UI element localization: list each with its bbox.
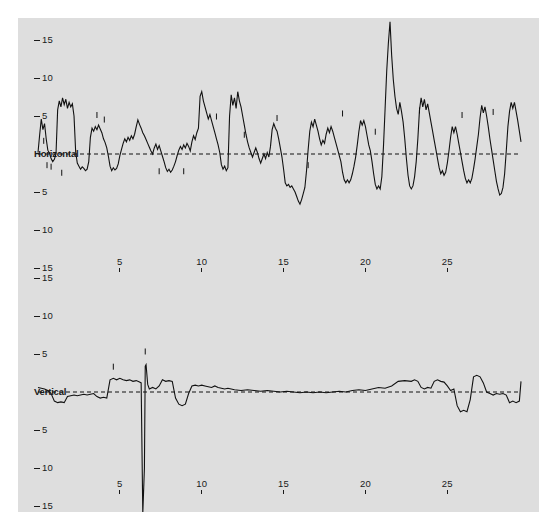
y-tick-label: 15 bbox=[42, 272, 53, 283]
x-tick-mark bbox=[447, 268, 448, 272]
x-tick-mark bbox=[283, 268, 284, 272]
x-tick-label: 5 bbox=[108, 478, 132, 489]
panel-center-label-vertical: Vertical bbox=[34, 386, 66, 397]
y-tick-dash bbox=[34, 192, 40, 193]
x-tick-mark bbox=[119, 268, 120, 272]
y-tick-label: 15 bbox=[42, 500, 53, 511]
x-tick-mark bbox=[119, 490, 120, 494]
x-tick-label: 20 bbox=[353, 256, 377, 267]
x-tick-mark bbox=[283, 490, 284, 494]
x-tick-mark bbox=[201, 490, 202, 494]
x-tick-mark bbox=[365, 268, 366, 272]
figure-root: 15105Horizontal51015510152025 15105Verti… bbox=[0, 0, 557, 530]
y-tick-label: 5 bbox=[42, 186, 47, 197]
y-tick-dash bbox=[34, 468, 40, 469]
x-tick-label: 25 bbox=[435, 256, 459, 267]
x-tick-label: 15 bbox=[272, 478, 296, 489]
panel-horizontal: 15105Horizontal51015510152025 bbox=[18, 18, 539, 280]
panel-vertical: 15105Vertical51015510152025 bbox=[18, 280, 539, 512]
x-tick-mark bbox=[365, 490, 366, 494]
y-tick-label: 10 bbox=[42, 462, 53, 473]
signal-trace-vertical bbox=[38, 365, 521, 512]
x-tick-label: 25 bbox=[435, 478, 459, 489]
x-tick-label: 5 bbox=[108, 256, 132, 267]
horizontal-series-plot bbox=[18, 18, 539, 280]
y-tick-label: 15 bbox=[42, 34, 53, 45]
y-tick-label: 10 bbox=[42, 72, 53, 83]
y-tick-dash bbox=[34, 268, 40, 269]
y-tick-dash bbox=[34, 40, 40, 41]
y-tick-dash bbox=[34, 278, 40, 279]
x-tick-label: 15 bbox=[272, 256, 296, 267]
y-tick-dash bbox=[34, 430, 40, 431]
y-tick-dash bbox=[34, 506, 40, 507]
x-tick-label: 20 bbox=[353, 478, 377, 489]
y-tick-label: 5 bbox=[42, 424, 47, 435]
y-tick-dash bbox=[34, 116, 40, 117]
y-tick-label: 10 bbox=[42, 310, 53, 321]
y-tick-dash bbox=[34, 316, 40, 317]
panel-center-label-horizontal: Horizontal bbox=[34, 148, 78, 159]
x-tick-mark bbox=[201, 268, 202, 272]
y-tick-dash bbox=[34, 78, 40, 79]
y-tick-dash bbox=[34, 354, 40, 355]
plot-canvas: 15105Horizontal51015510152025 15105Verti… bbox=[18, 18, 539, 512]
y-tick-dash bbox=[34, 230, 40, 231]
signal-trace-horizontal bbox=[38, 22, 521, 204]
y-tick-label: 5 bbox=[42, 110, 47, 121]
x-tick-mark bbox=[447, 490, 448, 494]
x-tick-label: 10 bbox=[190, 256, 214, 267]
y-tick-label: 10 bbox=[42, 224, 53, 235]
y-tick-label: 5 bbox=[42, 348, 47, 359]
x-tick-label: 10 bbox=[190, 478, 214, 489]
